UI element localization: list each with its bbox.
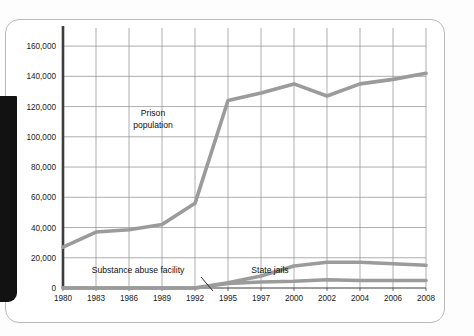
grid-lines: [63, 28, 426, 288]
x-tick-label: 2004: [351, 294, 370, 303]
series-line: [63, 73, 426, 247]
x-axis-tick-labels: 1980198319861989199219951997200020022004…: [54, 294, 436, 303]
y-tick-label: 100,000: [26, 133, 56, 142]
y-tick-label: 0: [51, 284, 56, 293]
x-tick-label: 2008: [417, 294, 436, 303]
x-tick-label: 1995: [219, 294, 238, 303]
x-tick-label: 1980: [54, 294, 73, 303]
x-tick-label: 1986: [120, 294, 139, 303]
y-axis-tick-labels: 020,00040,00060,00080,000100,000120,0001…: [26, 42, 56, 293]
y-tick-label: 80,000: [31, 163, 56, 172]
substance-annotation-label: Substance abuse facility: [92, 265, 185, 275]
x-tick-label: 2006: [384, 294, 403, 303]
page-root: 020,00040,00060,00080,000100,000120,0001…: [0, 0, 474, 336]
x-tick-label: 2000: [285, 294, 304, 303]
prison-annotation-line-2: population: [133, 120, 173, 130]
annotation-state-jails: State jails: [251, 265, 288, 275]
x-tick-label: 1992: [186, 294, 205, 303]
annotation-prison-population: Prison population: [133, 108, 173, 130]
prison-annotation-line-1: Prison: [141, 108, 166, 118]
x-tick-label: 1997: [252, 294, 271, 303]
series-line: [63, 280, 426, 288]
chart-figure: 020,00040,00060,00080,000100,000120,0001…: [5, 19, 445, 323]
y-tick-label: 20,000: [31, 254, 56, 263]
axis-lines: [63, 26, 426, 291]
y-tick-label: 160,000: [26, 42, 56, 51]
x-tick-label: 1989: [153, 294, 172, 303]
y-tick-label: 60,000: [31, 193, 56, 202]
line-chart-svg: 020,00040,00060,00080,000100,000120,0001…: [5, 19, 445, 323]
x-tick-label: 1983: [87, 294, 106, 303]
data-series: [63, 73, 426, 288]
y-tick-label: 140,000: [26, 72, 56, 81]
x-tick-label: 2002: [318, 294, 337, 303]
y-tick-label: 120,000: [26, 103, 56, 112]
state-jails-annotation-label: State jails: [251, 265, 288, 275]
y-tick-label: 40,000: [31, 224, 56, 233]
